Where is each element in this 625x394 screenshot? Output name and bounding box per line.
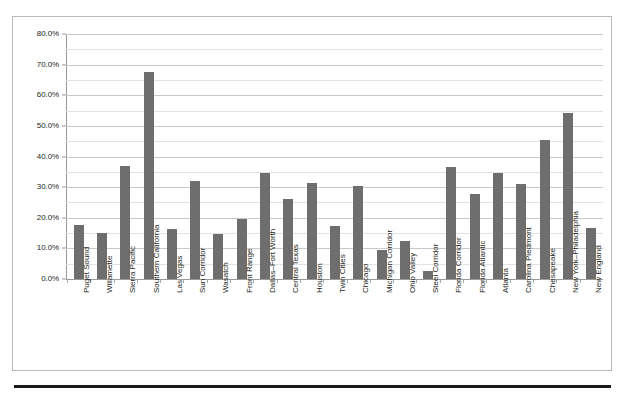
- category-tick-mark: [183, 280, 184, 283]
- category-axis-label-text: Sierra Pacific: [129, 246, 137, 293]
- category-label-slot: Central Texas: [277, 285, 300, 371]
- category-label-slot: New York–Philadelphia: [556, 285, 579, 371]
- category-axis-label: New York–Philadelphia: [571, 211, 579, 293]
- y-axis-tick-mark: [62, 279, 66, 280]
- category-axis-label-text: Willamette: [105, 256, 113, 293]
- category-label-slot: Sun Corridor: [183, 285, 206, 371]
- category-tick-mark: [207, 280, 208, 283]
- bar-slot: [580, 34, 603, 279]
- category-label-slot: Puget Sound: [67, 285, 90, 371]
- category-tick-mark: [440, 280, 441, 283]
- category-axis-label: Chesapeake: [548, 248, 556, 293]
- category-label-slot: Chesapeake: [533, 285, 556, 371]
- category-label-slot: Front Range: [230, 285, 253, 371]
- y-axis-tick-label: 10.0%: [37, 244, 59, 252]
- category-label-slot: Twin Cities: [323, 285, 346, 371]
- category-axis-label-text: Puget Sound: [82, 247, 90, 293]
- category-tick-mark: [463, 280, 464, 283]
- y-axis-tick-label: 20.0%: [37, 214, 59, 222]
- category-tick-mark: [253, 280, 254, 283]
- category-axis-label-text: Chesapeake: [548, 248, 556, 293]
- category-tick-mark: [416, 280, 417, 283]
- category-label-slot: Florida Atlantic: [463, 285, 486, 371]
- bar-slot: [207, 34, 230, 279]
- y-axis-tick-mark: [62, 95, 66, 96]
- category-axis-label-text: Front Range: [245, 249, 253, 293]
- bar-slot: [416, 34, 439, 279]
- category-axis-label: Central Texas: [292, 244, 300, 293]
- category-axis-label-text: Florida Atlantic: [478, 241, 486, 293]
- category-axis-label: Las Vegas: [175, 256, 183, 293]
- bottom-rule: [14, 385, 611, 388]
- bar-slot: [533, 34, 556, 279]
- y-axis-tick-label: 60.0%: [37, 91, 59, 99]
- category-axis-label-text: Florida Corridor: [455, 237, 463, 293]
- category-tick-mark: [510, 280, 511, 283]
- category-axis-label: Florida Corridor: [455, 237, 463, 293]
- bar[interactable]: [493, 173, 503, 279]
- bar-slot: [67, 34, 90, 279]
- category-axis-label: Chicago: [362, 264, 370, 293]
- category-axis-label: Houston: [315, 263, 323, 293]
- category-axis-label-text: Wasatch: [222, 262, 230, 293]
- category-axis-label-text: Steel Corridor: [432, 244, 440, 293]
- y-axis-tick-label: 0.0%: [41, 275, 59, 283]
- category-tick-mark: [370, 280, 371, 283]
- y-axis-tick-mark: [62, 64, 66, 65]
- bar-slot: [300, 34, 323, 279]
- plot-area: 0.0%10.0%20.0%30.0%40.0%50.0%60.0%70.0%8…: [66, 34, 603, 279]
- category-axis-label-text: Carolina Piedmont: [525, 227, 533, 293]
- y-axis-tick-mark: [62, 34, 66, 35]
- category-axis-label: Puget Sound: [82, 247, 90, 293]
- category-axis-label-text: New England: [595, 245, 603, 293]
- bar-slot: [393, 34, 416, 279]
- category-tick-mark: [137, 280, 138, 283]
- y-axis-tick-label: 50.0%: [37, 122, 59, 130]
- bar-slot: [347, 34, 370, 279]
- category-tick-mark: [533, 280, 534, 283]
- category-label-slot: Florida Corridor: [440, 285, 463, 371]
- category-tick-mark: [580, 280, 581, 283]
- bar-slot: [160, 34, 183, 279]
- bar-slot: [90, 34, 113, 279]
- y-axis-tick-label: 40.0%: [37, 153, 59, 161]
- category-axis-label: Dallas–Fort Worth: [269, 229, 277, 293]
- category-label-slot: Steel Corridor: [416, 285, 439, 371]
- category-axis-label: Front Range: [245, 249, 253, 293]
- category-axis-labels: Puget SoundWillametteSierra PacificSouth…: [67, 285, 603, 371]
- bar-slot: [277, 34, 300, 279]
- category-label-slot: Willamette: [90, 285, 113, 371]
- figure: 0.0%10.0%20.0%30.0%40.0%50.0%60.0%70.0%8…: [0, 0, 625, 394]
- category-label-slot: Carolina Piedmont: [510, 285, 533, 371]
- bar-slot: [486, 34, 509, 279]
- y-axis-tick-mark: [62, 248, 66, 249]
- category-axis-label-text: Twin Cities: [338, 254, 346, 293]
- category-tick-mark: [300, 280, 301, 283]
- y-axis-tick-label: 80.0%: [37, 30, 59, 38]
- category-axis-label: Sun Corridor: [199, 248, 207, 293]
- category-axis-label: Carolina Piedmont: [525, 227, 533, 293]
- y-axis-tick-mark: [62, 125, 66, 126]
- y-axis-tick-mark: [62, 217, 66, 218]
- category-axis-label-text: New York–Philadelphia: [571, 211, 579, 293]
- category-axis-label: Southern California: [152, 225, 160, 293]
- category-tick-mark: [67, 280, 68, 283]
- category-axis-label-text: Chicago: [362, 264, 370, 293]
- category-label-slot: Atlanta: [486, 285, 509, 371]
- category-axis-label-text: Atlanta: [501, 268, 509, 293]
- category-label-slot: Ohio Valley: [393, 285, 416, 371]
- y-axis-tick-label: 30.0%: [37, 183, 59, 191]
- category-label-slot: Sierra Pacific: [114, 285, 137, 371]
- category-label-slot: Southern California: [137, 285, 160, 371]
- chart-frame: 0.0%10.0%20.0%30.0%40.0%50.0%60.0%70.0%8…: [12, 16, 612, 371]
- category-tick-mark: [277, 280, 278, 283]
- category-axis-label: Twin Cities: [338, 254, 346, 293]
- bar-slot: [323, 34, 346, 279]
- category-label-slot: New England: [580, 285, 603, 371]
- category-axis-label-text: Dallas–Fort Worth: [269, 229, 277, 293]
- category-label-slot: Houston: [300, 285, 323, 371]
- bar-slot: [114, 34, 137, 279]
- category-axis-label-text: Houston: [315, 263, 323, 293]
- category-axis-label-text: Ohio Valley: [408, 253, 416, 293]
- category-label-slot: Michigan Corridor: [370, 285, 393, 371]
